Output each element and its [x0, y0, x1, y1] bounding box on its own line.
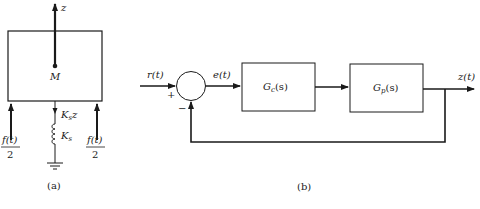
- input-label: r(t): [147, 69, 164, 80]
- svg-text:2: 2: [92, 149, 98, 160]
- spring-constant-label: Ks: [60, 130, 72, 143]
- left-force-label: f(t) 2: [1, 134, 20, 160]
- figure-a: z M Ksz Ks f(t) 2 f(t): [1, 2, 105, 191]
- center-of-mass-dot: [53, 64, 58, 69]
- figure-a-caption: (a): [47, 180, 61, 191]
- error-label: e(t): [213, 69, 231, 80]
- svg-text:2: 2: [7, 149, 13, 160]
- mass-label: M: [49, 71, 61, 82]
- diagram-canvas: z M Ksz Ks f(t) 2 f(t): [0, 0, 480, 209]
- feedback-path: [191, 89, 445, 142]
- controller-label: Gc(s): [263, 81, 288, 94]
- svg-text:f(t): f(t): [86, 134, 103, 145]
- right-force-label: f(t) 2: [86, 134, 105, 160]
- spring-coil-icon: [52, 124, 55, 144]
- spring-force-arrow-icon: [53, 108, 58, 114]
- plant-label: Gp(s): [373, 82, 399, 95]
- output-label: z(t): [457, 71, 475, 82]
- figure-b-caption: (b): [297, 181, 311, 192]
- spring-force-label: Ksz: [60, 109, 78, 122]
- figure-b: r(t) + − e(t) Gc(s) Gp(s) z(t) (b): [140, 63, 475, 192]
- summing-junction: [177, 72, 206, 101]
- svg-text:f(t): f(t): [1, 134, 18, 145]
- minus-sign: −: [178, 103, 186, 114]
- z-axis-label: z: [60, 2, 67, 13]
- ground-icon: [47, 163, 63, 169]
- plus-sign: +: [167, 89, 175, 100]
